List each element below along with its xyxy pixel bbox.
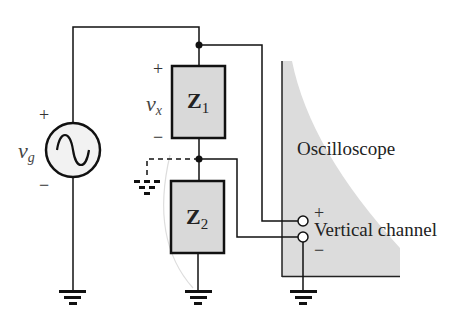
oscilloscope-panel — [282, 61, 400, 276]
vx-symbol: v — [146, 91, 156, 116]
scope-terminal-plus — [298, 216, 308, 226]
vx-subscript: x — [156, 103, 162, 118]
z1-label: Z1 — [187, 90, 209, 116]
vx-label: vx — [146, 93, 162, 118]
circuit-diagram: + vg − + vx − Z1 Z2 Oscilloscope + Verti… — [0, 0, 471, 328]
junction-dot-middle — [196, 156, 203, 163]
source-label: vg — [18, 140, 35, 165]
z2-symbol: Z — [186, 204, 201, 229]
source-symbol: v — [18, 138, 28, 163]
vertical-channel-label: Vertical channel — [314, 220, 437, 239]
source-minus-sign: − — [39, 176, 49, 194]
ground-icon-scope — [290, 290, 317, 305]
source-subscript: g — [28, 150, 35, 165]
z1-symbol: Z — [187, 88, 202, 113]
source-plus-sign: + — [39, 106, 49, 124]
vx-minus-sign: − — [153, 128, 163, 146]
ac-source-icon — [46, 123, 100, 177]
channel-minus-sign: − — [314, 241, 324, 259]
ground-icon-source — [59, 290, 86, 305]
z2-subscript: 2 — [201, 216, 209, 232]
scope-terminal-minus — [298, 232, 308, 242]
ground-icon-z2 — [185, 290, 212, 305]
oscilloscope-label: Oscilloscope — [297, 139, 395, 158]
junction-dot-top — [196, 42, 203, 49]
circuit-schematic — [0, 0, 471, 328]
dashed-ground-link — [147, 159, 199, 178]
z2-label: Z2 — [186, 206, 208, 232]
dashed-ground-icon — [134, 180, 160, 195]
z1-subscript: 1 — [202, 100, 210, 116]
vx-plus-sign: + — [153, 60, 163, 78]
